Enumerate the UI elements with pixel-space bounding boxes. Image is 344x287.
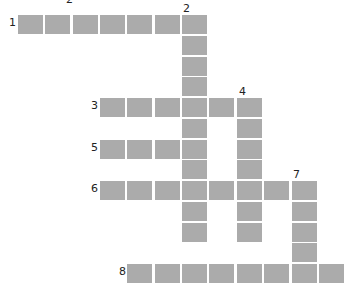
- crossword-cell[interactable]: [182, 223, 207, 242]
- crossword-cell[interactable]: [127, 140, 152, 159]
- crossword-cell[interactable]: [182, 36, 207, 55]
- crossword-cell[interactable]: [237, 264, 262, 283]
- crossword-cell[interactable]: [264, 181, 289, 200]
- crossword-cell[interactable]: [100, 181, 125, 200]
- crossword-cell[interactable]: [155, 264, 180, 283]
- crossword-cell[interactable]: [100, 15, 125, 34]
- crossword-cell[interactable]: [182, 160, 207, 179]
- crossword-cell[interactable]: [45, 15, 70, 34]
- crossword-cell[interactable]: [182, 57, 207, 76]
- clue-number-6: 6: [91, 183, 98, 194]
- crossword-cell[interactable]: [127, 98, 152, 117]
- crossword-cell[interactable]: [182, 140, 207, 159]
- crossword-cell[interactable]: [127, 15, 152, 34]
- crossword-cell[interactable]: [182, 77, 207, 96]
- crossword-cell[interactable]: [100, 140, 125, 159]
- crossword-cell[interactable]: [237, 202, 262, 221]
- crossword-cell[interactable]: [155, 15, 180, 34]
- crossword-cell[interactable]: [155, 98, 180, 117]
- clue-number-4: 4: [239, 86, 246, 97]
- crossword-cell[interactable]: [237, 98, 262, 117]
- crossword-cell[interactable]: [292, 181, 317, 200]
- clue-number-7: 7: [293, 169, 300, 180]
- clue-number-3: 3: [91, 100, 98, 111]
- crossword-cell[interactable]: [182, 119, 207, 138]
- crossword-cell[interactable]: [292, 202, 317, 221]
- crossword-cell[interactable]: [264, 264, 289, 283]
- clue-number-8: 8: [119, 266, 126, 277]
- crossword-cell[interactable]: [237, 119, 262, 138]
- crossword-cell[interactable]: [100, 98, 125, 117]
- crossword-cell[interactable]: [182, 15, 207, 34]
- crossword-cell[interactable]: [155, 181, 180, 200]
- crossword-cell[interactable]: [18, 15, 43, 34]
- crossword-cell[interactable]: [237, 181, 262, 200]
- crossword-cell[interactable]: [319, 264, 344, 283]
- crossword-cell[interactable]: [237, 140, 262, 159]
- crossword-cell[interactable]: [155, 140, 180, 159]
- clue-number-2: 2: [183, 3, 190, 14]
- crossword-cell[interactable]: [127, 264, 152, 283]
- crossword-cell[interactable]: [182, 264, 207, 283]
- crossword-cell[interactable]: [292, 264, 317, 283]
- crossword-cell[interactable]: [209, 264, 234, 283]
- crossword-cell[interactable]: [209, 181, 234, 200]
- crossword-cell[interactable]: [127, 181, 152, 200]
- clue-number-1: 1: [9, 17, 16, 28]
- clue-number-5: 5: [91, 142, 98, 153]
- crossword-cell[interactable]: [209, 98, 234, 117]
- crossword-cell[interactable]: [292, 223, 317, 242]
- crossword-cell[interactable]: [237, 160, 262, 179]
- crossword-cell[interactable]: [182, 181, 207, 200]
- crossword-cell[interactable]: [182, 98, 207, 117]
- crossword-cell[interactable]: [292, 243, 317, 262]
- crossword-cell[interactable]: [73, 15, 98, 34]
- crossword-cell[interactable]: [237, 223, 262, 242]
- crossword-cell[interactable]: [182, 202, 207, 221]
- cropped-label: 2: [66, 0, 73, 6]
